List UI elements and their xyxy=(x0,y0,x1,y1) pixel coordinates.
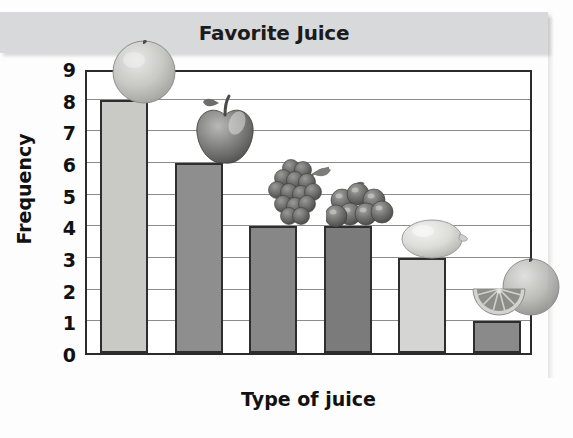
y-axis-tick-label: 4 xyxy=(50,217,76,239)
page-title: Favorite Juice xyxy=(199,21,350,45)
gridline xyxy=(87,289,530,290)
y-axis-tick-label: 0 xyxy=(50,344,76,366)
bar-lemon xyxy=(398,258,446,353)
x-axis-label: Type of juice xyxy=(85,388,532,410)
bar-berry xyxy=(324,226,372,353)
y-axis-tick-label: 5 xyxy=(50,186,76,208)
gridline xyxy=(87,320,530,321)
y-axis-tick-label: 9 xyxy=(50,59,76,81)
y-axis-tick-label: 8 xyxy=(50,91,76,113)
y-axis-tick-label: 3 xyxy=(50,249,76,271)
y-axis-tick-label: 1 xyxy=(50,312,76,334)
panel-shadow xyxy=(548,18,554,378)
grapefruit-half-icon xyxy=(465,253,561,327)
bar-orange xyxy=(100,100,148,353)
y-axis-ticks: 0123456789 xyxy=(46,70,76,355)
y-axis-tick-label: 7 xyxy=(50,122,76,144)
plot-area xyxy=(85,70,532,355)
gridline xyxy=(87,257,530,258)
bar-apple xyxy=(175,163,223,353)
bar-grapefruit xyxy=(473,321,521,353)
y-axis-tick-label: 6 xyxy=(50,154,76,176)
gridline xyxy=(87,194,530,195)
gridline xyxy=(87,225,530,226)
berry-cluster-icon xyxy=(326,178,396,232)
y-axis-tick-label: 2 xyxy=(50,281,76,303)
bar-grape xyxy=(249,226,297,353)
chart-title-band: Favorite Juice xyxy=(0,12,548,53)
gridline xyxy=(87,99,530,100)
gridline xyxy=(87,130,530,131)
y-axis-label: Frequency xyxy=(13,124,35,254)
gridline xyxy=(87,162,530,163)
